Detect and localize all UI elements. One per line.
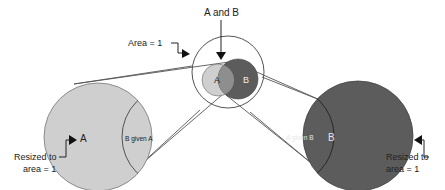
small-b-label: B [243,75,249,85]
venn-diagram: A B A and B Area = 1 A B given A A given… [0,0,445,190]
left-b-given-a-label: B given A [125,135,153,143]
left-resized-line2: area = 1 [23,164,56,174]
right-resized-line2: area = 1 [386,164,419,174]
right-resized-arrowhead-icon [414,135,422,145]
small-a-label: A [214,75,220,85]
area-one-label: Area = 1 [128,38,162,48]
a-and-b-label: A and B [204,7,239,18]
left-a-label: A [80,133,87,144]
right-a-given-b-label: A given B [286,134,313,142]
right-b-label: B [328,132,335,143]
area-one-arrowhead-icon [182,49,190,58]
left-resized-line1: Resized to [14,152,57,162]
a-and-b-arrowhead-icon [216,52,226,60]
right-resized-line1: Resized to [386,152,429,162]
